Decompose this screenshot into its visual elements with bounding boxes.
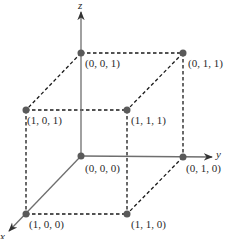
vertex-point-101: [23, 107, 30, 114]
edge-011-111: [127, 53, 183, 110]
vertex-point-001: [78, 50, 85, 57]
y-axis-label: y: [215, 148, 221, 160]
edge-010-110: [127, 157, 183, 214]
cube-edges: [26, 53, 183, 214]
y-axis: [81, 156, 212, 157]
x-axis-label: x: [0, 230, 5, 239]
vertex-labels: (0, 0, 0) (0, 0, 1) (0, 1, 1) (1, 0, 1) …: [27, 57, 223, 231]
vertex-label-011: (0, 1, 1): [188, 57, 223, 70]
vertex-point-110: [124, 211, 131, 218]
vertex-label-000: (0, 0, 0): [85, 162, 120, 175]
z-axis-label: z: [77, 0, 83, 11]
vertex-point-000: [78, 153, 85, 160]
vertex-point-011: [180, 50, 187, 57]
vertex-label-101: (1, 0, 1): [27, 114, 62, 127]
vertex-label-001: (0, 0, 1): [85, 57, 120, 70]
vertex-point-111: [124, 107, 131, 114]
vertex-point-010: [180, 154, 187, 161]
vertex-label-110: (1, 1, 0): [131, 218, 166, 231]
vertex-label-100: (1, 0, 0): [29, 218, 64, 231]
vertex-label-010: (0, 1, 0): [186, 162, 221, 175]
vertex-point-100: [23, 211, 30, 218]
vertex-label-111: (1, 1, 1): [131, 114, 166, 127]
edge-001-101: [26, 53, 81, 110]
cube-diagram: z y x (0, 0, 0) (0, 0, 1) (0, 1, 1) (1, …: [0, 0, 226, 239]
